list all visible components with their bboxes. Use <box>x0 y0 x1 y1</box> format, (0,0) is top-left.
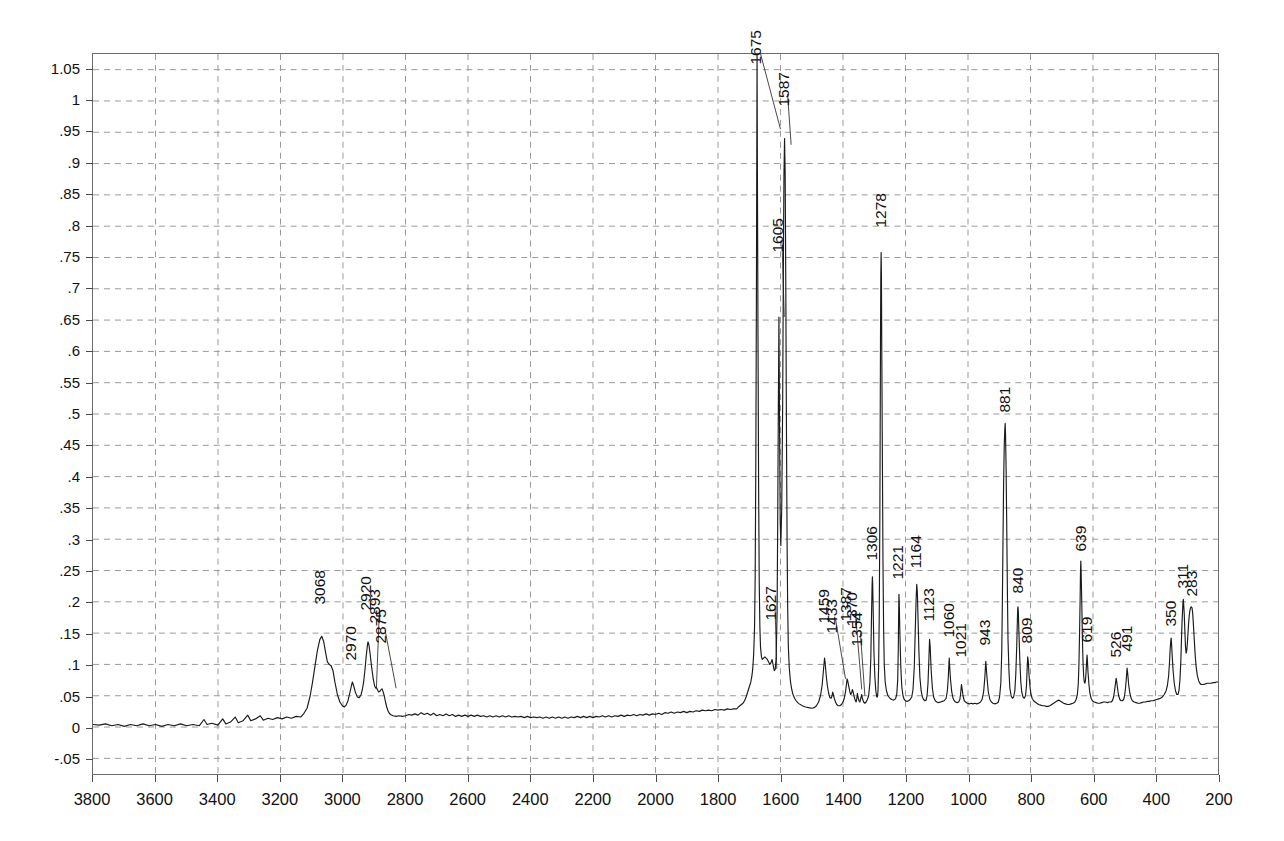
y-tick-mark <box>86 351 93 352</box>
peak-label: 2875 <box>372 609 388 643</box>
spectrum-chart-page: 1.051.95.9.85.8.75.7.65.6.55.5.45.4.35.3… <box>0 0 1284 841</box>
peak-label: 1627 <box>763 586 779 620</box>
y-tick-label: .15 <box>0 626 80 641</box>
y-tick-mark <box>86 69 93 70</box>
y-tick-label: .3 <box>0 532 80 547</box>
peak-label: 840 <box>1009 568 1025 594</box>
y-tick-label: .8 <box>0 218 80 233</box>
y-tick-mark <box>86 697 93 698</box>
y-tick-label: .75 <box>0 249 80 264</box>
y-tick-label: .5 <box>0 406 80 421</box>
peak-label: 491 <box>1118 626 1134 652</box>
peak-label: 350 <box>1163 601 1179 627</box>
y-tick-label: 1.05 <box>0 61 80 76</box>
peak-label: 1306 <box>863 526 879 560</box>
x-tick-mark <box>781 775 782 782</box>
y-tick-mark <box>86 100 93 101</box>
y-tick-label: .25 <box>0 563 80 578</box>
y-tick-label: .1 <box>0 657 80 672</box>
peak-label: 809 <box>1019 618 1035 644</box>
y-tick-mark <box>86 288 93 289</box>
y-tick-label: 1 <box>0 92 80 107</box>
y-tick-mark <box>86 634 93 635</box>
y-tick-label: .85 <box>0 186 80 201</box>
x-tick-mark <box>969 775 970 782</box>
y-tick-mark <box>86 383 93 384</box>
spectrum-trace <box>93 54 1218 774</box>
x-tick-mark <box>1094 775 1095 782</box>
x-tick-mark <box>217 775 218 782</box>
y-tick-label: .2 <box>0 594 80 609</box>
y-tick-mark <box>86 163 93 164</box>
x-tick-label: 200 <box>1179 791 1259 808</box>
peak-label: 1675 <box>748 30 764 64</box>
x-tick-mark <box>405 775 406 782</box>
peak-label: 619 <box>1078 616 1094 642</box>
x-tick-mark <box>280 775 281 782</box>
y-tick-mark <box>86 602 93 603</box>
y-tick-mark <box>86 414 93 415</box>
y-tick-label: 0 <box>0 720 80 735</box>
peak-label: 1123 <box>921 588 937 621</box>
y-tick-label: .55 <box>0 375 80 390</box>
peak-label: 1605 <box>770 218 786 252</box>
y-tick-mark <box>86 665 93 666</box>
peak-label: 2970 <box>342 626 358 660</box>
y-tick-label: .05 <box>0 689 80 704</box>
y-tick-mark <box>86 445 93 446</box>
y-tick-mark <box>86 508 93 509</box>
peak-label: 283 <box>1184 570 1200 596</box>
x-tick-mark <box>530 775 531 782</box>
peak-label: 1278 <box>872 193 888 227</box>
y-tick-label: .9 <box>0 155 80 170</box>
y-tick-label: .45 <box>0 437 80 452</box>
x-tick-mark <box>593 775 594 782</box>
x-tick-mark <box>843 775 844 782</box>
y-tick-mark <box>86 571 93 572</box>
x-tick-mark <box>656 775 657 782</box>
x-tick-mark <box>1219 775 1220 782</box>
peak-label: 943 <box>977 619 993 645</box>
y-tick-mark <box>86 728 93 729</box>
y-tick-mark <box>86 759 93 760</box>
peak-label: 1587 <box>775 72 791 106</box>
peak-label: 1021 <box>952 623 968 657</box>
y-tick-mark <box>86 257 93 258</box>
y-tick-label: .35 <box>0 500 80 515</box>
peak-label: 881 <box>996 387 1012 413</box>
peak-label: 1221 <box>890 545 906 579</box>
y-tick-label: -.05 <box>0 751 80 766</box>
y-tick-mark <box>86 320 93 321</box>
peak-label: 1164 <box>908 535 924 568</box>
y-tick-mark <box>86 540 93 541</box>
y-tick-label: .7 <box>0 280 80 295</box>
x-tick-mark <box>155 775 156 782</box>
x-tick-mark <box>718 775 719 782</box>
y-tick-label: .4 <box>0 469 80 484</box>
peak-label: 3068 <box>312 570 328 604</box>
y-tick-label: .65 <box>0 312 80 327</box>
y-tick-mark <box>86 226 93 227</box>
y-tick-mark <box>86 477 93 478</box>
x-tick-mark <box>468 775 469 782</box>
x-tick-mark <box>1031 775 1032 782</box>
peak-label: 1354 <box>848 612 864 646</box>
x-tick-mark <box>342 775 343 782</box>
x-tick-mark <box>906 775 907 782</box>
y-tick-label: .6 <box>0 343 80 358</box>
x-tick-mark <box>92 775 93 782</box>
y-tick-mark <box>86 194 93 195</box>
x-tick-mark <box>1156 775 1157 782</box>
peak-label: 639 <box>1072 525 1088 551</box>
y-tick-label: .95 <box>0 123 80 138</box>
plot-frame <box>92 53 1219 775</box>
y-tick-mark <box>86 131 93 132</box>
